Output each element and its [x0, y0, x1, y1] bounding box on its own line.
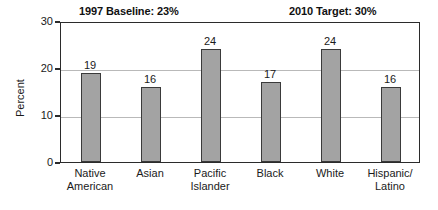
x-category-label: Hispanic/ Latino [360, 167, 420, 192]
y-tick-label: 30 [27, 15, 53, 27]
baseline-annotation: 1997 Baseline: 23% [79, 5, 179, 17]
x-category-label: Pacific Islander [180, 167, 240, 192]
bar-value-label: 16 [130, 73, 170, 85]
y-axis-title: Percent [14, 79, 26, 117]
bar [261, 82, 281, 162]
plot-area [60, 22, 420, 163]
y-tick-label: 20 [27, 62, 53, 74]
bar-value-label: 16 [370, 73, 410, 85]
bar-value-label: 19 [70, 59, 110, 71]
bar-value-label: 17 [250, 68, 290, 80]
y-tick-label: 10 [27, 109, 53, 121]
y-tick-label: 0 [27, 156, 53, 168]
bar [321, 49, 341, 162]
gridline [61, 70, 419, 71]
gridline [61, 117, 419, 118]
x-category-label: Asian [120, 167, 180, 180]
bar [141, 87, 161, 162]
bar [81, 73, 101, 162]
bar [201, 49, 221, 162]
bar-value-label: 24 [190, 35, 230, 47]
x-category-label: Black [240, 167, 300, 180]
target-annotation: 2010 Target: 30% [289, 5, 376, 17]
x-category-label: Native American [60, 167, 120, 192]
x-category-label: White [300, 167, 360, 180]
bar-chart: 1997 Baseline: 23% 2010 Target: 30% Perc… [0, 0, 438, 210]
bar [381, 87, 401, 162]
bar-value-label: 24 [310, 35, 350, 47]
